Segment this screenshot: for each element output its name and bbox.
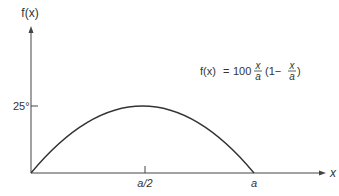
parabola-curve — [31, 106, 254, 173]
frac2-num: x — [289, 60, 296, 71]
frac1-num: x — [255, 60, 262, 71]
y-axis-label: f(x) — [21, 6, 38, 20]
equation-coef: 100 — [233, 65, 251, 77]
parabola-diagram: 25° a/2 a f(x) x f(x) = 100 x a (1− x a … — [0, 0, 339, 196]
x-tick-label-a: a — [251, 177, 257, 189]
equation-paren-close: ) — [297, 65, 301, 77]
equation-paren-open: (1− — [265, 65, 281, 77]
x-axis-arrow-icon — [319, 171, 326, 176]
equation-equals: = — [223, 65, 229, 77]
frac2-den: a — [289, 71, 295, 82]
frac1-den: a — [255, 71, 261, 82]
y-axis-arrow-icon — [29, 26, 34, 33]
y-tick-label: 25° — [13, 100, 30, 112]
equation-lhs: f(x) — [200, 65, 216, 77]
x-tick-label-half: a/2 — [137, 177, 152, 189]
equation: f(x) = 100 x a (1− x a ) — [200, 60, 301, 82]
x-axis-label: x — [329, 166, 337, 180]
